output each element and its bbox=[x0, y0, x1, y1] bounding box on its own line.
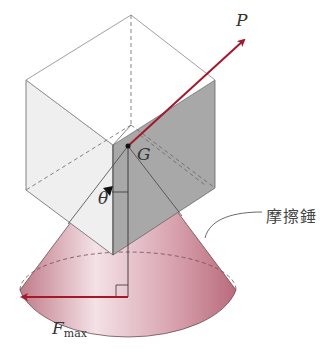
center-of-gravity-dot bbox=[126, 144, 131, 149]
friction-max-label: Fmax bbox=[52, 318, 87, 340]
cone-label-leader bbox=[205, 212, 262, 238]
cube-block bbox=[26, 15, 215, 255]
friction-cone-label: 摩擦錘 bbox=[266, 203, 317, 227]
friction-symbol: F bbox=[52, 318, 64, 338]
center-g-label: G bbox=[137, 144, 151, 164]
force-p-label: P bbox=[236, 10, 247, 30]
friction-cone-diagram bbox=[0, 0, 331, 359]
angle-theta-label: θ bbox=[98, 188, 108, 208]
friction-subscript: max bbox=[64, 327, 87, 340]
